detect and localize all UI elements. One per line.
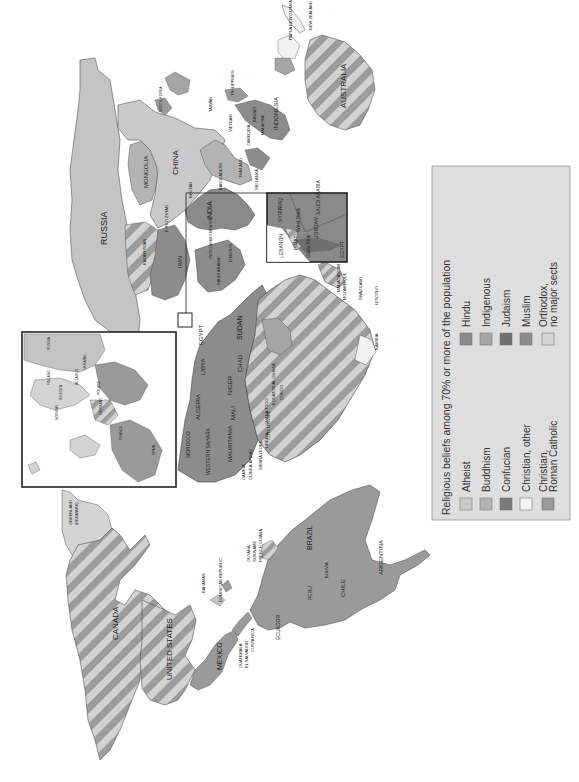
label-mali: MALI [230, 406, 236, 420]
label-russia: RUSSIA [99, 211, 109, 245]
north-america [62, 490, 252, 760]
inset-label-spain: SPAIN [152, 444, 156, 455]
legend-label-buddhism: Buddhism [481, 448, 492, 492]
legend-swatch-christian-roman-catholic [542, 498, 554, 510]
label-chad: CHAD [237, 354, 243, 372]
region-mexico [190, 630, 238, 690]
legend-swatch-indigenous [480, 333, 492, 345]
inset-label-russia: RUSSIA [47, 336, 51, 350]
inset-label-finland: FINLAND [47, 370, 51, 385]
label-canada: CANADA [111, 606, 120, 640]
label-taiwan: TAIWAN [208, 97, 213, 112]
label-sierra-leone: SIERRA LEONE [258, 440, 263, 470]
south-america [250, 485, 430, 630]
label-brazil: BRAZIL [306, 525, 313, 550]
label-namibia: NAMIBIA [374, 333, 379, 350]
label-ecuador: ECUADOR [275, 615, 281, 640]
legend-label-atheist: Atheist [461, 461, 472, 492]
label-niger: NIGER [227, 375, 233, 395]
label-greenland-sub: (DENMARK) [74, 502, 79, 525]
label-philippines: PHILIPPINES [230, 70, 235, 95]
label-suriname: SURINAME [252, 541, 257, 562]
label-cambodia: CAMBODIA [246, 124, 251, 146]
inset-label-iraq: IRAQ [277, 198, 283, 210]
region-korea [155, 98, 172, 115]
label-vietnam: VIETNAM [228, 114, 233, 132]
label-papua-new-guinea: PAPUA NEW GUINEA [288, 0, 293, 40]
label-lesotho: LESOTHO [374, 286, 379, 305]
inset-label-lebanon: LEBANON [278, 234, 284, 258]
label-malaysia: MALAYSIA [260, 115, 265, 135]
legend-swatch-orthodox [542, 333, 554, 345]
label-el-salvador: EL SALVADOR [244, 641, 249, 668]
label-saudi-arabia: SAUDI ARABIA [216, 257, 221, 285]
label-north-korea: NORTH KOREA [159, 86, 163, 112]
inset-label-germany: GERMANY [99, 397, 103, 415]
label-new-zealand: NEW ZEALAND [308, 1, 313, 30]
label-guatemala: GUATEMALA [238, 643, 243, 668]
inset-label-poland: POLAND [97, 380, 101, 395]
inset-label-egypt: EGYPT [339, 241, 345, 258]
label-indonesia: INDONESIA [273, 97, 279, 130]
label-western-sahara: WESTERN SAHARA [205, 427, 211, 475]
label-gambia: GAMBIA [241, 464, 246, 480]
label-bangladesh: BANGLADESH [218, 163, 223, 190]
label-equatorial-guinea: EQUATORIAL GUINEA [271, 363, 276, 405]
label-thailand: THAILAND [238, 158, 243, 178]
legend-swatch-judaism [500, 333, 512, 345]
inset-label-west-bank: West Bank [295, 207, 301, 232]
legend-label-judaism: Judaism [501, 290, 512, 327]
label-ghana: GHANA [264, 410, 269, 425]
label-mozambique: MOZAMBIQUE [342, 272, 347, 300]
region-central-america [232, 612, 252, 636]
inset-label-ukraine: UKRAINE [83, 354, 87, 370]
region-png [275, 58, 295, 75]
label-iran: IRAN [177, 256, 183, 268]
legend-label-indigenous: Indigenous [481, 278, 492, 327]
legend-swatch-hindu [460, 333, 472, 345]
inset-label-saudi-arabia: SAUDI ARABIA [315, 180, 321, 215]
inset-label-france: FRANCE [119, 425, 123, 440]
label-mongolia: MONGOLIA [143, 156, 149, 188]
legend-label-hindu: Hindu [461, 301, 472, 327]
inset-label-israel: ISRAEL [293, 232, 299, 250]
legend-title: Religious beliefs among 70% or more of t… [440, 260, 452, 515]
region-new-zealand [282, 5, 305, 33]
legend-swatch-confucian [500, 498, 512, 510]
region-japan [165, 72, 190, 95]
legend-label-christian-roman-catholic-line2: Roman Catholic [548, 421, 559, 492]
label-morocco: MOROCCO [185, 431, 191, 458]
label-china: CHINA [171, 149, 180, 175]
label-sri-lanka: SRI LANKA [254, 169, 259, 190]
legend-label-christian-other: Christian, other [521, 424, 532, 492]
label-guinea-bissau: GUINEA-BISSAU [248, 449, 253, 480]
label-congo: CONGO [279, 385, 284, 400]
inset-label-gaza: Gaza Strip [305, 234, 311, 258]
label-bolivia: BOLIVIA [324, 562, 329, 578]
legend-swatch-atheist [460, 498, 472, 510]
legend-label-muslim: Muslim [521, 295, 532, 327]
label-australia: AUSTRALIA [339, 63, 348, 108]
legend-swatch-christian-other [520, 498, 532, 510]
region-hispaniola [222, 580, 232, 592]
label-mauritania: MAURITANIA [227, 425, 233, 462]
legend-swatch-buddhism [480, 498, 492, 510]
label-egypt: EGYPT [198, 324, 204, 345]
label-peru: PERU [307, 586, 313, 600]
inset-locator-box [178, 313, 192, 327]
legend-label-confucian: Confucian [501, 447, 512, 492]
inset-label-sweden: SWEDEN [59, 384, 63, 400]
legend: Religious beliefs among 70% or more of t… [432, 166, 570, 520]
label-djibouti: DJIBOUTI [228, 244, 233, 262]
label-kyrgyzstan: KYRGYZSTAN [164, 205, 169, 232]
region-south-america [250, 485, 430, 630]
label-guyana: GUYANA [246, 545, 251, 562]
label-french-guiana: FRENCH GUIANA [258, 529, 263, 562]
label-libya: LIBYA [200, 358, 206, 375]
label-brunei: BRUNEI [252, 107, 257, 122]
label-india: INDIA [206, 201, 213, 220]
inset-label-norway: NORWAY [55, 404, 59, 420]
label-dominican-republic: DOMINICAN REPUBLIC [218, 558, 223, 602]
label-swaziland: SWAZILAND [358, 277, 363, 300]
religion-world-map: CANADA UNITED STATES MEXICO GREENLAND (D… [0, 0, 579, 782]
